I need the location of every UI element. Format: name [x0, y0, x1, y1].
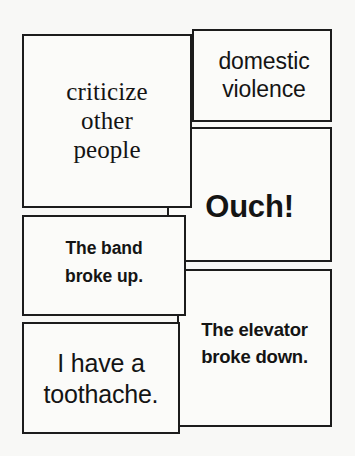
card-label-criticize-other-people: criticize other people — [24, 77, 190, 164]
card-label-band-broke-up: The band broke up. — [24, 235, 184, 289]
card-criticize-other-people[interactable]: criticize other people — [22, 34, 192, 208]
card-label-ouch: Ouch! — [169, 189, 330, 225]
card-label-domestic-violence: domestic violence — [194, 48, 330, 103]
card-label-toothache: I have a toothache. — [24, 348, 178, 410]
card-elevator-broke-down[interactable]: The elevator broke down. — [177, 269, 332, 427]
card-band-broke-up[interactable]: The band broke up. — [22, 215, 186, 316]
card-board: criticize other people domestic violence… — [0, 0, 355, 456]
card-domestic-violence[interactable]: domestic violence — [192, 29, 332, 122]
card-toothache[interactable]: I have a toothache. — [22, 322, 180, 434]
card-label-elevator-broke-down: The elevator broke down. — [179, 317, 330, 371]
